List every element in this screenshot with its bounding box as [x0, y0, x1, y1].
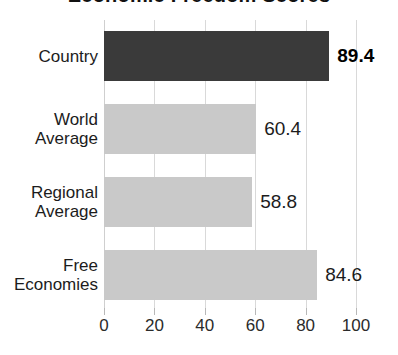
x-tick-label: 40: [195, 316, 214, 336]
category-label: Free Economies: [0, 256, 98, 294]
chart-title-clipped: Economic Freedom Scores: [0, 0, 398, 14]
bar: [104, 250, 317, 300]
x-tick-label: 60: [246, 316, 265, 336]
value-label: 60.4: [264, 118, 301, 140]
bar-chart: Economic Freedom Scores 020406080100 Cou…: [0, 0, 398, 355]
x-tick-label: 20: [145, 316, 164, 336]
tick-mark-20: [154, 308, 155, 315]
chart-title: Economic Freedom Scores: [0, 0, 398, 7]
value-label: 84.6: [325, 264, 362, 286]
x-tick-label: 80: [296, 316, 315, 336]
plot-area: 020406080100: [104, 20, 356, 308]
category-label: World Average: [0, 110, 98, 148]
bar: [104, 31, 329, 81]
tick-mark-40: [205, 308, 206, 315]
value-label: 89.4: [337, 45, 374, 67]
x-tick-label: 100: [342, 316, 370, 336]
x-tick-label: 0: [99, 316, 108, 336]
bar: [104, 177, 252, 227]
value-label: 58.8: [260, 191, 297, 213]
tick-mark-100: [356, 308, 357, 315]
tick-mark-0: [104, 308, 105, 315]
tick-mark-60: [255, 308, 256, 315]
category-label: Country: [0, 47, 98, 66]
bar: [104, 104, 256, 154]
category-label: Regional Average: [0, 183, 98, 221]
tick-mark-80: [306, 308, 307, 315]
